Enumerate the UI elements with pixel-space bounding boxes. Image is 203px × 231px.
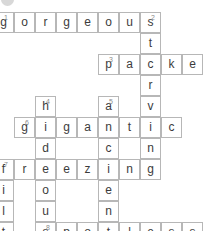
cell-letter: n [99,202,118,221]
crossword-cell[interactable]: p [56,222,77,231]
cell-letter: e [57,160,76,179]
crossword-cell[interactable]: l [0,201,14,222]
cell-letter: a [78,118,97,137]
cell-letter: k [162,55,181,74]
cell-letter: s [162,223,181,231]
crossword-cell[interactable]: e [56,159,77,180]
crossword-cell[interactable]: a [119,54,140,75]
crossword-cell[interactable]: e [77,12,98,33]
cell-letter: i [99,160,118,179]
crossword-cell[interactable]: i [35,117,56,138]
crossword-cell[interactable]: u [35,201,56,222]
crossword-cell[interactable]: n [140,138,161,159]
crossword-cell[interactable]: a [77,117,98,138]
cell-letter: t [0,223,13,231]
crossword-cell[interactable]: f7 [0,159,14,180]
crossword-cell[interactable]: g6 [14,117,35,138]
crossword-cell[interactable]: d [35,138,56,159]
cell-letter: c [99,139,118,158]
cell-letter: e [78,13,97,32]
crossword-cell[interactable]: r [35,12,56,33]
cell-letter: t [141,34,160,53]
cell-letter: o [99,13,118,32]
crossword-cell[interactable]: s [161,222,182,231]
cell-letter: l [120,223,139,231]
cell-clue-number: 2 [151,14,155,21]
cell-clue-number: 1 [4,14,8,21]
cell-letter: o [15,13,34,32]
cell-letter: p [57,223,76,231]
cell-letter: s [183,223,202,231]
cell-letter: g [57,118,76,137]
cell-clue-number: 3 [109,56,113,63]
crossword-cell[interactable]: o [14,12,35,33]
cell-letter: t [99,223,118,231]
cell-letter: i [36,118,55,137]
cell-letter: e [36,160,55,179]
cell-letter: u [120,13,139,32]
cell-letter: e [183,55,202,74]
cell-letter: o [78,223,97,231]
cell-letter: n [141,139,160,158]
cell-letter: r [36,13,55,32]
crossword-cell[interactable]: e [98,180,119,201]
cell-letter: u [36,202,55,221]
crossword-cell[interactable]: h4 [35,96,56,117]
cell-letter: n [99,118,118,137]
cell-letter: t [120,118,139,137]
cell-clue-number: 5 [109,98,113,105]
crossword-cell[interactable]: n [119,159,140,180]
crossword-cell[interactable]: c [161,117,182,138]
crossword-cell[interactable]: e [140,222,161,231]
crossword-cell[interactable]: l [119,222,140,231]
crossword-cell[interactable]: g1 [0,12,14,33]
cell-letter: z [78,160,97,179]
crossword-cell[interactable]: s [182,222,203,231]
crossword-cell[interactable]: t [140,33,161,54]
crossword-cell[interactable]: c [98,138,119,159]
crossword-cell[interactable]: k [161,54,182,75]
cell-letter: r [141,76,160,95]
crossword-cell[interactable]: a5 [98,96,119,117]
crossword-cell[interactable]: n [98,117,119,138]
crossword-cell[interactable]: t [0,222,14,231]
cell-letter: o [36,181,55,200]
crossword-cell[interactable]: t [98,222,119,231]
cell-clue-number: 8 [46,224,50,231]
crossword-cell[interactable]: s8 [35,222,56,231]
crossword-cell[interactable]: r [140,75,161,96]
cell-letter: g [57,13,76,32]
crossword-cell[interactable]: r [14,159,35,180]
cell-letter: g [141,160,160,179]
cell-letter: e [99,181,118,200]
cell-letter: l [0,202,13,221]
crossword-grid[interactable]: g1orgeous2tp3ackedrh4a5vg6iganticdcnf7re… [0,0,203,231]
crossword-cell[interactable]: g [56,117,77,138]
cell-letter: v [141,97,160,116]
cell-clue-number: 7 [4,161,8,168]
crossword-cell[interactable]: o [35,180,56,201]
crossword-cell[interactable]: e [35,159,56,180]
crossword-cell[interactable]: o [98,12,119,33]
crossword-cell[interactable]: i [140,117,161,138]
crossword-cell[interactable]: i [98,159,119,180]
cell-clue-number: 4 [46,98,50,105]
crossword-cell[interactable]: o [77,222,98,231]
crossword-cell[interactable]: z [77,159,98,180]
cell-letter: i [0,181,13,200]
crossword-cell[interactable]: t [119,117,140,138]
cell-clue-number: 6 [25,119,29,126]
crossword-cell[interactable]: g [140,159,161,180]
crossword-cell[interactable]: i [0,180,14,201]
crossword-cell[interactable]: c [140,54,161,75]
crossword-cell[interactable]: g [56,12,77,33]
cell-letter: r [15,160,34,179]
crossword-cell[interactable]: v [140,96,161,117]
crossword-cell[interactable]: n [98,201,119,222]
cell-letter: c [162,118,181,137]
cell-letter: e [141,223,160,231]
crossword-cell[interactable]: p3 [98,54,119,75]
crossword-cell[interactable]: s2 [140,12,161,33]
crossword-cell[interactable]: u [119,12,140,33]
crossword-cell[interactable]: e [182,54,203,75]
